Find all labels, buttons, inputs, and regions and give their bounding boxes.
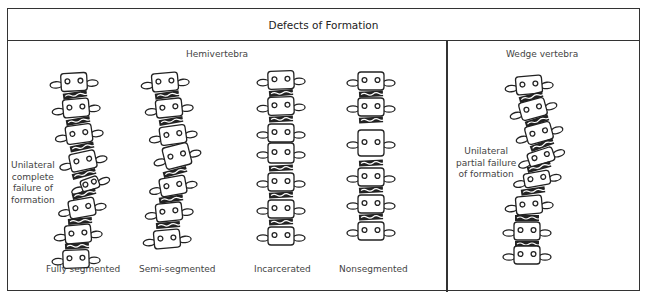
side-label-line: failure of	[11, 183, 55, 195]
wedge-vertebra-heading: Wedge vertebra	[506, 49, 578, 61]
side-label-line: Unilateral	[11, 160, 55, 172]
side-label-line: formation	[11, 195, 55, 207]
side-label-line: complete	[11, 172, 55, 184]
diagram-title: Defects of Formation	[8, 9, 639, 41]
spine-nonsegmented-illustration	[343, 69, 413, 259]
spine-incarcerated-illustration	[251, 66, 321, 256]
column-label-incarcerated: Incarcerated	[254, 264, 311, 276]
spine-fully-segmented-illustration	[52, 70, 122, 260]
column-label-nonsegmented: Nonsegmented	[339, 264, 408, 276]
hemivertebra-heading: Hemivertebra	[186, 49, 248, 61]
hemivertebra-side-label: Unilateral complete failure of formation	[11, 160, 55, 206]
column-label-semi-segmented: Semi-segmented	[139, 264, 216, 276]
section-divider	[446, 41, 448, 292]
spine-semi-segmented-illustration	[143, 68, 213, 258]
spine-wedge-illustration	[507, 75, 577, 260]
